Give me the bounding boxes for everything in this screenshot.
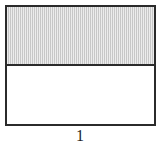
figure-number-label: 1 — [0, 127, 160, 145]
shaded-band — [7, 7, 154, 66]
fraction-rectangle — [5, 5, 156, 126]
unshaded-band — [7, 66, 154, 124]
figure-container: 1 — [0, 0, 160, 145]
